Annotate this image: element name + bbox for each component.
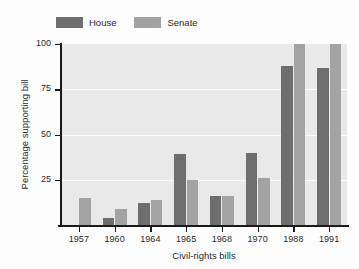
legend-entry-senate[interactable]: Senate (134, 17, 197, 28)
x-tick-label-1970: 1970 (238, 234, 278, 244)
bar-senate-1970 (258, 178, 270, 225)
x-tick-label-1957: 1957 (59, 234, 99, 244)
x-tick-1988 (293, 226, 294, 232)
bar-chart-figure: House Senate 255075100 19571960196419651… (0, 0, 359, 269)
bar-senate-1964 (151, 200, 163, 225)
bar-senate-1968 (222, 196, 234, 225)
bar-house-1968 (210, 196, 222, 225)
x-tick-1968 (222, 226, 223, 232)
bar-senate-1988 (294, 44, 306, 225)
bar-house-1960 (103, 218, 115, 225)
x-axis-line (58, 225, 349, 227)
bar-senate-1957 (79, 198, 91, 225)
bar-senate-1965 (187, 180, 199, 225)
bar-senate-1991 (330, 44, 342, 225)
y-tick-75 (55, 89, 61, 90)
bar-senate-1960 (115, 209, 127, 225)
x-tick-label-1965: 1965 (166, 234, 206, 244)
x-tick-1970 (258, 226, 259, 232)
x-tick-label-1988: 1988 (273, 234, 313, 244)
bar-house-1991 (317, 68, 329, 225)
legend-swatch-senate (134, 17, 161, 28)
legend-label-house: House (89, 17, 116, 28)
x-axis-title: Civil-rights bills (61, 250, 347, 261)
x-tick-1991 (329, 226, 330, 232)
bar-house-1964 (138, 203, 150, 225)
x-tick-label-1960: 1960 (95, 234, 135, 244)
x-tick-label-1968: 1968 (202, 234, 242, 244)
legend-entry-house[interactable]: House (56, 17, 116, 28)
chart-legend: House Senate (56, 15, 198, 29)
x-tick-label-1991: 1991 (309, 234, 349, 244)
x-tick-label-1964: 1964 (130, 234, 170, 244)
x-tick-1965 (186, 226, 187, 232)
legend-label-senate: Senate (167, 17, 197, 28)
legend-swatch-house (56, 17, 83, 28)
y-tick-25 (55, 180, 61, 181)
bar-house-1988 (281, 66, 293, 225)
bar-house-1965 (174, 154, 186, 225)
y-axis-title: Percentage supporting bill (18, 44, 32, 225)
plot-area (61, 44, 347, 225)
bar-house-1970 (246, 153, 258, 225)
x-tick-1960 (115, 226, 116, 232)
x-tick-1964 (150, 226, 151, 232)
x-tick-1957 (79, 226, 80, 232)
y-tick-50 (55, 135, 61, 136)
y-tick-100 (55, 44, 61, 45)
